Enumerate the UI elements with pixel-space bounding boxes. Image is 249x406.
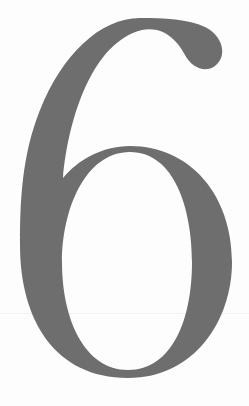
page: 6 <box>0 0 249 406</box>
chapter-number-six: 6 <box>0 0 249 406</box>
